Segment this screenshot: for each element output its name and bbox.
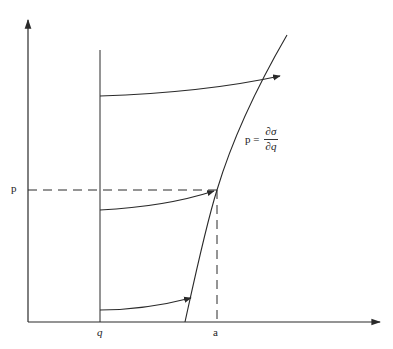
- formula-label: p = ∂σ ∂q: [245, 126, 278, 152]
- formula-numerator: ∂σ: [264, 126, 279, 140]
- arrow-bottom: [100, 298, 191, 310]
- formula-denominator: ∂q: [263, 140, 278, 153]
- y-tick-label-p: p: [11, 183, 17, 194]
- formula-fraction: ∂σ ∂q: [263, 126, 278, 152]
- formula-lhs: p =: [245, 133, 259, 145]
- x-tick-label-a: a: [213, 327, 218, 338]
- arrow-middle: [100, 191, 214, 210]
- diagram-canvas: [0, 0, 393, 349]
- arrow-top: [100, 76, 280, 96]
- x-tick-label-q: q: [97, 327, 103, 338]
